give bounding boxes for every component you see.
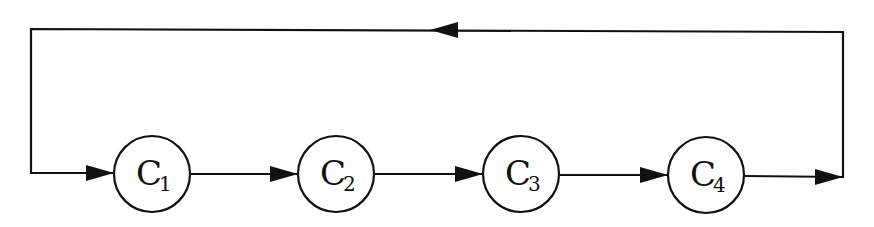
arrow-into-c3-icon [455, 166, 483, 182]
node-c4: C4 [668, 137, 744, 213]
arrow-feedback-icon [430, 22, 458, 38]
arrow-into-c4-icon [640, 167, 668, 183]
arrow-into-c1-icon [86, 165, 114, 181]
arrow-out-c4-icon [815, 169, 843, 185]
arrow-into-c2-icon [270, 166, 298, 182]
node-c1: C1 [114, 136, 190, 212]
node-subscript: 3 [528, 172, 541, 196]
cycle-diagram: C1C2C3C4 [0, 0, 874, 227]
node-subscript: 1 [159, 172, 172, 196]
node-subscript: 4 [713, 173, 726, 197]
node-c2: C2 [298, 136, 374, 212]
node-c3: C3 [483, 136, 559, 212]
node-subscript: 2 [343, 172, 356, 196]
